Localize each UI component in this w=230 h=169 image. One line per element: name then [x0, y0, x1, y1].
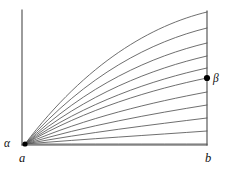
- geodesic-curve: [25, 56, 207, 144]
- curve-family: [25, 12, 207, 144]
- label-a: a: [19, 151, 25, 165]
- label-b: b: [205, 151, 211, 165]
- axis-group: [22, 10, 207, 145]
- point-a-dot: [22, 141, 27, 146]
- geodesic-curve: [25, 43, 207, 144]
- geodesic-curve: [25, 12, 207, 144]
- label-group: α β a b: [4, 72, 219, 165]
- geodesic-fan-diagram: α β a b: [0, 0, 230, 169]
- point-markers: [22, 75, 210, 147]
- figure-canvas: α β a b: [0, 0, 230, 169]
- label-alpha: α: [4, 137, 11, 149]
- label-beta: β: [212, 72, 219, 85]
- point-beta-dot: [204, 75, 210, 81]
